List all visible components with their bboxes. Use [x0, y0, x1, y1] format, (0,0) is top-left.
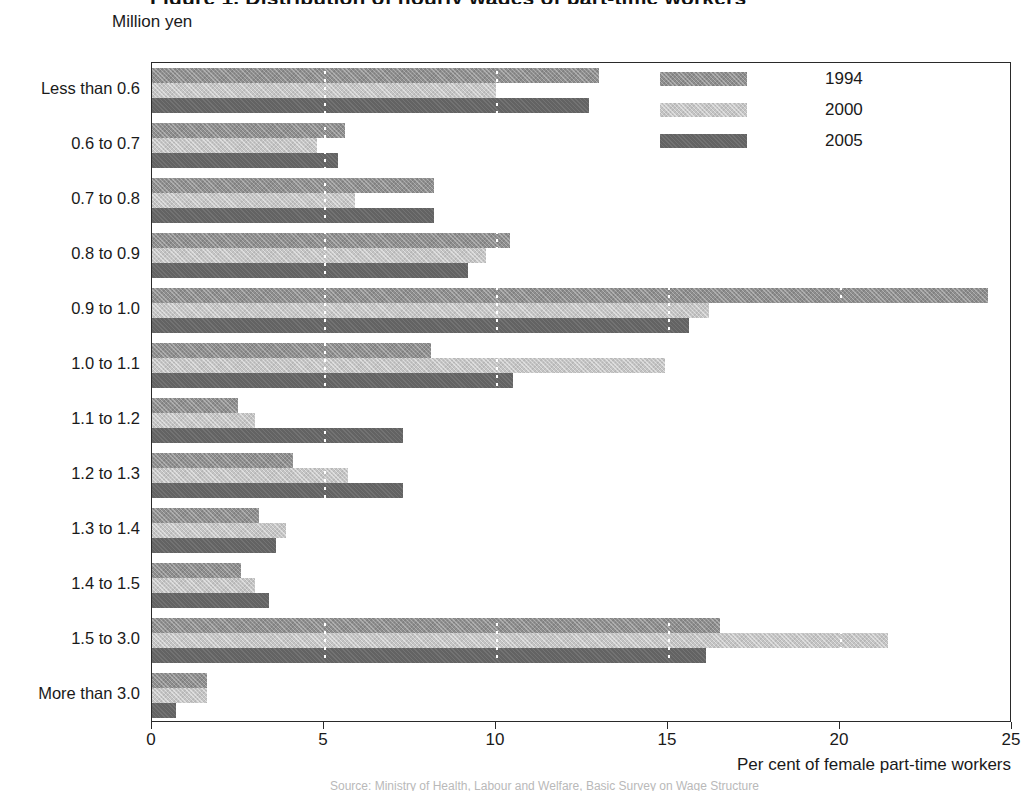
legend-label-1994: 1994 [825, 69, 863, 89]
y-axis-label: More than 3.0 [0, 684, 140, 703]
x-tick-label: 0 [146, 730, 155, 750]
legend-item-2005: 2005 [660, 130, 863, 152]
y-axis-label: 1.1 to 1.2 [0, 409, 140, 428]
x-tick-15 [667, 722, 668, 729]
x-tick-20 [839, 722, 840, 729]
x-tick-25 [1011, 722, 1012, 729]
y-axis-label: 0.6 to 0.7 [0, 134, 140, 153]
x-tick-5 [323, 722, 324, 729]
y-axis-label: 1.4 to 1.5 [0, 574, 140, 593]
y-axis-label: 1.5 to 3.0 [0, 629, 140, 648]
x-tick-label: 5 [318, 730, 327, 750]
x-axis-title: Per cent of female part-time workers [737, 755, 1011, 775]
y-axis-label: 1.0 to 1.1 [0, 354, 140, 373]
legend-item-2000: 2000 [660, 99, 863, 121]
y-axis-label: 1.2 to 1.3 [0, 464, 140, 483]
y-axis-label: 1.3 to 1.4 [0, 519, 140, 538]
legend-swatch-2000 [660, 103, 747, 117]
legend-swatch-2005 [660, 134, 747, 148]
x-tick-label: 25 [1002, 730, 1021, 750]
legend-item-1994: 1994 [660, 68, 863, 90]
x-tick-label: 20 [830, 730, 849, 750]
y-axis-label: 0.8 to 0.9 [0, 244, 140, 263]
y-axis-label: 0.7 to 0.8 [0, 189, 140, 208]
x-tick-10 [495, 722, 496, 729]
x-tick-label: 15 [658, 730, 677, 750]
legend-label-2005: 2005 [825, 131, 863, 151]
x-tick-0 [151, 722, 152, 729]
legend: 1994 2000 2005 [660, 68, 863, 161]
legend-label-2000: 2000 [825, 100, 863, 120]
y-axis-label: 0.9 to 1.0 [0, 299, 140, 318]
figure-source-note: Source: Ministry of Health, Labour and W… [330, 779, 1030, 791]
x-tick-label: 10 [486, 730, 505, 750]
y-axis-label: Less than 0.6 [0, 79, 140, 98]
legend-swatch-1994 [660, 72, 747, 86]
